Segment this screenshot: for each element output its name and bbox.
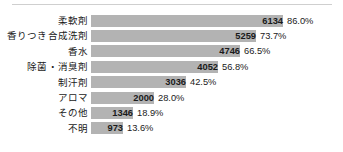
bar-rows-container: 柔軟剤 6134 86.0% 香りつき合成洗剤 5259 73.7% 香水 47…	[0, 13, 343, 136]
bar-track: 5259 73.7%	[91, 28, 343, 43]
table-row: 香水 4746 66.5%	[0, 44, 343, 59]
bar-category-label: アロマ	[58, 90, 88, 105]
bar-category-label: 香りつき合成洗剤	[7, 28, 88, 43]
bar-track: 4052 56.8%	[91, 59, 343, 74]
table-row: 柔軟剤 6134 86.0%	[0, 13, 343, 28]
bar-value-label: 973	[91, 122, 126, 134]
bar-percent-label: 56.8%	[218, 61, 248, 73]
bar-value-label: 5259	[91, 30, 259, 42]
bar-percent-label: 66.5%	[240, 45, 270, 57]
top-divider-rule	[12, 4, 332, 5]
bar-category-label: その他	[58, 105, 88, 120]
bar-percent-label: 13.6%	[123, 122, 153, 134]
bar-value-label: 4052	[91, 61, 221, 73]
bar-value-label: 1346	[91, 107, 136, 119]
bar-percent-label: 18.9%	[133, 107, 163, 119]
bar-value-label: 2000	[91, 92, 157, 104]
bar-track: 2000 28.0%	[91, 90, 343, 105]
bar-percent-label: 86.0%	[283, 15, 313, 27]
table-row: 香りつき合成洗剤 5259 73.7%	[0, 28, 343, 43]
bar-category-label: 制汗剤	[58, 75, 88, 90]
bar-track: 4746 66.5%	[91, 44, 343, 59]
bar-track: 6134 86.0%	[91, 13, 343, 28]
table-row: 除菌・消臭剤 4052 56.8%	[0, 59, 343, 74]
bar-category-label: 不明	[68, 121, 88, 136]
bar-percent-label: 73.7%	[256, 30, 286, 42]
bar-category-label: 柔軟剤	[58, 13, 88, 28]
bar-percent-label: 42.5%	[186, 76, 216, 88]
bar-value-label: 6134	[91, 15, 286, 27]
bar-track: 3036 42.5%	[91, 75, 343, 90]
table-row: 制汗剤 3036 42.5%	[0, 75, 343, 90]
bar-value-label: 3036	[91, 76, 189, 88]
table-row: その他 1346 18.9%	[0, 105, 343, 120]
table-row: アロマ 2000 28.0%	[0, 90, 343, 105]
horizontal-bar-chart: 柔軟剤 6134 86.0% 香りつき合成洗剤 5259 73.7% 香水 47…	[0, 0, 343, 152]
bar-track: 1346 18.9%	[91, 105, 343, 120]
bar-value-label: 4746	[91, 45, 243, 57]
bar-category-label: 香水	[68, 44, 88, 59]
bar-track: 973 13.6%	[91, 121, 343, 136]
bar-category-label: 除菌・消臭剤	[27, 59, 88, 74]
bar-percent-label: 28.0%	[154, 92, 184, 104]
table-row: 不明 973 13.6%	[0, 121, 343, 136]
